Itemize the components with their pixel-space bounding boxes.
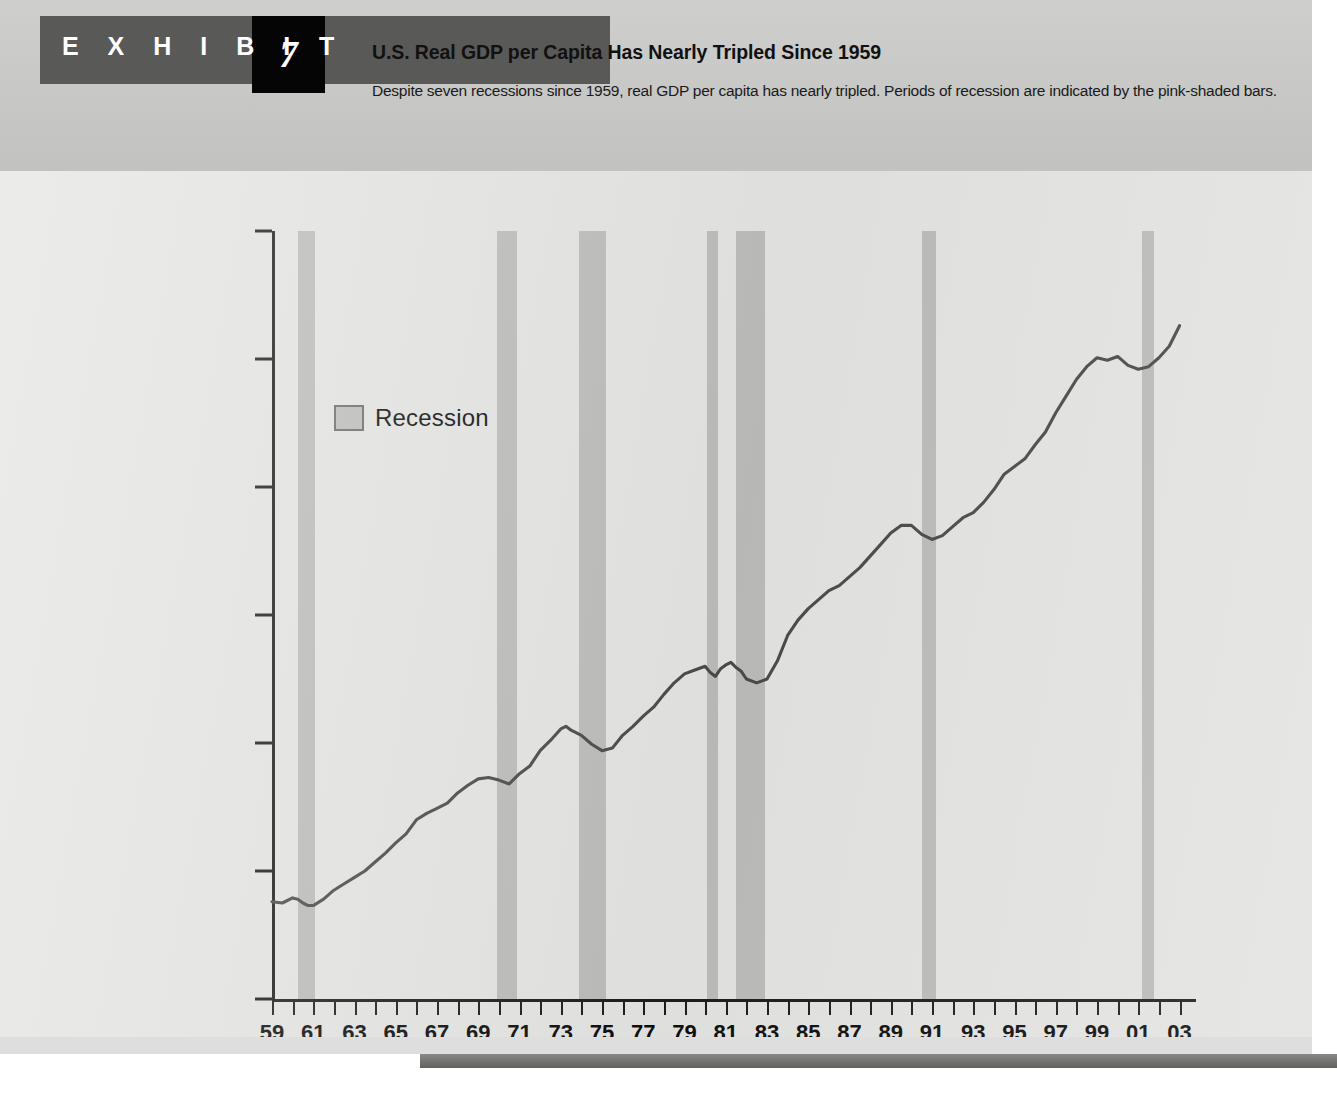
x-tick-mark	[767, 1002, 769, 1015]
y-tick-mark	[255, 358, 272, 361]
x-tick-mark	[1056, 1002, 1058, 1015]
x-tick-mark	[561, 1002, 563, 1015]
x-tick-mark	[581, 1002, 583, 1015]
x-tick-label: 99	[1085, 1020, 1109, 1037]
x-tick-mark	[1118, 1002, 1120, 1015]
x-tick-label: 71	[507, 1020, 531, 1037]
page-edge	[0, 1037, 1312, 1054]
x-tick-label: 69	[466, 1020, 490, 1037]
x-tick-mark	[1159, 1002, 1161, 1015]
x-tick-mark	[623, 1002, 625, 1015]
x-tick-mark	[891, 1002, 893, 1015]
x-tick-label: 93	[961, 1020, 985, 1037]
legend: Recession	[334, 404, 489, 432]
x-tick-mark	[437, 1002, 439, 1015]
x-tick-mark	[850, 1002, 852, 1015]
exhibit-page: E X H I B I T 7 U.S. Real GDP per Capita…	[0, 0, 1337, 1098]
x-tick-mark	[664, 1002, 666, 1015]
y-tick-mark	[255, 230, 272, 233]
x-tick-mark	[499, 1002, 501, 1015]
chart-figure: Constant (2000) dollars 10,00015,00020,0…	[0, 171, 1312, 1037]
page-title: U.S. Real GDP per Capita Has Nearly Trip…	[372, 41, 881, 64]
x-tick-mark	[1180, 1002, 1182, 1015]
x-tick-mark	[685, 1002, 687, 1015]
x-tick-mark	[602, 1002, 604, 1015]
x-tick-mark	[396, 1002, 398, 1015]
x-tick-label: 67	[425, 1020, 449, 1037]
x-tick-mark	[416, 1002, 418, 1015]
x-tick-mark	[375, 1002, 377, 1015]
x-tick-mark	[293, 1002, 295, 1015]
bottom-rule	[420, 1054, 1337, 1068]
x-tick-label: 79	[672, 1020, 696, 1037]
x-tick-mark	[726, 1002, 728, 1015]
x-tick-mark	[1035, 1002, 1037, 1015]
x-tick-label: 01	[1126, 1020, 1150, 1037]
x-tick-mark	[540, 1002, 542, 1015]
x-tick-mark	[911, 1002, 913, 1015]
x-tick-label: 75	[590, 1020, 614, 1037]
y-tick-mark	[255, 486, 272, 489]
x-tick-mark	[313, 1002, 315, 1015]
plot-area: 10,00015,00020,00025,00030,00035,00040,0…	[272, 231, 1195, 999]
y-tick-mark	[255, 870, 272, 873]
x-tick-mark	[746, 1002, 748, 1015]
page-subtitle: Despite seven recessions since 1959, rea…	[372, 79, 1297, 102]
x-tick-label: 89	[879, 1020, 903, 1037]
exhibit-number: 7	[252, 16, 325, 93]
x-tick-mark	[478, 1002, 480, 1015]
x-tick-mark	[705, 1002, 707, 1015]
x-tick-mark	[520, 1002, 522, 1015]
x-tick-label: 83	[755, 1020, 779, 1037]
x-tick-mark	[1015, 1002, 1017, 1015]
x-tick-label: 77	[631, 1020, 655, 1037]
x-tick-label: 59	[260, 1020, 284, 1037]
x-tick-label: 65	[384, 1020, 408, 1037]
x-tick-label: 63	[342, 1020, 366, 1037]
x-tick-mark	[788, 1002, 790, 1015]
x-tick-label: 03	[1167, 1020, 1191, 1037]
y-tick-mark	[255, 742, 272, 745]
x-tick-mark	[272, 1002, 274, 1015]
legend-label-recession: Recession	[375, 404, 489, 432]
x-tick-label: 81	[714, 1020, 738, 1037]
x-tick-label: 61	[301, 1020, 325, 1037]
series-line-layer	[272, 231, 1195, 999]
x-tick-label: 85	[796, 1020, 820, 1037]
x-tick-mark	[1076, 1002, 1078, 1015]
x-tick-mark	[829, 1002, 831, 1015]
x-tick-mark	[334, 1002, 336, 1015]
x-tick-mark	[973, 1002, 975, 1015]
x-tick-label: 73	[549, 1020, 573, 1037]
x-tick-label: 97	[1044, 1020, 1068, 1037]
x-tick-mark	[355, 1002, 357, 1015]
x-tick-mark	[458, 1002, 460, 1015]
legend-swatch-recession	[334, 405, 364, 431]
x-tick-label: 95	[1002, 1020, 1026, 1037]
x-tick-mark	[643, 1002, 645, 1015]
x-tick-mark	[953, 1002, 955, 1015]
x-tick-mark	[808, 1002, 810, 1015]
x-tick-mark	[870, 1002, 872, 1015]
x-tick-mark	[994, 1002, 996, 1015]
x-tick-mark	[932, 1002, 934, 1015]
x-tick-label: 87	[837, 1020, 861, 1037]
y-tick-mark	[255, 614, 272, 617]
y-tick-mark	[255, 998, 272, 1001]
x-tick-mark	[1097, 1002, 1099, 1015]
x-tick-label: 91	[920, 1020, 944, 1037]
x-tick-mark	[1138, 1002, 1140, 1015]
